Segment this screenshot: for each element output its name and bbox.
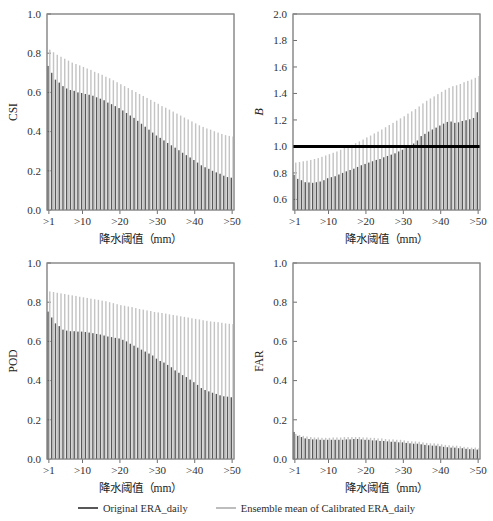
bar [47,312,48,459]
bar [79,297,80,459]
bar [88,95,89,210]
bar [368,440,369,459]
bar [377,438,378,459]
bar [124,306,125,459]
bar [381,129,382,210]
y-tick-label: 0.4 [273,374,287,386]
bar [115,338,116,459]
bar [321,438,322,459]
plot-frame [293,263,480,459]
bar [178,150,179,210]
bar [415,441,416,459]
bar [163,140,164,210]
bar [150,100,151,210]
bar [437,94,438,210]
bar [417,444,418,459]
y-tick-label: 1.0 [273,257,287,269]
bar [94,72,95,210]
plot-frame-overlay [47,14,234,210]
bar [174,148,175,210]
plot-frame [47,263,234,459]
bar [163,363,164,459]
bar [448,445,449,459]
bar [150,311,151,459]
y-tick-label: 0.8 [273,296,287,308]
bar [53,292,54,459]
bar [201,388,202,459]
bar [229,136,230,210]
bar [308,439,309,459]
bar [171,145,172,210]
bar [357,439,358,459]
bar [148,354,149,459]
bar [59,83,60,210]
bar [57,55,58,210]
bar [109,78,110,210]
bar [297,436,298,459]
y-tick-label: 2.0 [273,8,287,20]
bar [394,442,395,459]
bar [128,88,129,210]
chart-panel-b: 0.60.81.01.21.41.61.82.0>1>10>20>30>40>5… [246,0,493,249]
bar-group-csi [47,50,233,210]
bar [135,308,136,459]
bar [77,92,78,210]
bar [92,96,93,210]
bar [445,445,446,459]
bar [327,178,328,210]
bar [351,437,352,459]
bar [329,438,330,459]
bar [86,298,87,459]
bar [310,160,311,210]
bar [81,93,82,210]
bar [318,437,319,459]
bar [349,170,350,210]
bar [473,449,474,459]
bar [306,161,307,210]
bar [396,440,397,459]
bar [379,159,380,210]
bar [122,110,123,210]
x-tick-label: >20 [111,464,129,476]
bar [182,375,183,459]
bar [389,125,390,210]
y-tick-label: 0.4 [27,374,41,386]
bar [176,114,177,210]
bar [402,442,403,459]
bar [435,446,436,459]
bar [154,312,155,459]
y-tick-label: 0.4 [27,125,41,137]
bar [391,155,392,210]
bar [318,158,319,210]
bar [98,300,99,459]
bar [107,337,108,460]
x-tick-label: >20 [357,464,375,476]
bar [424,445,425,459]
x-tick-label: >40 [432,215,450,227]
bar [201,165,202,210]
bar [312,439,313,459]
y-tick-label: 1.0 [273,140,287,152]
bar [225,323,226,459]
bar [426,101,427,210]
bar [413,444,414,459]
bar [385,127,386,210]
bar [383,441,384,459]
bar [297,179,298,210]
bar [66,88,67,210]
bar [430,443,431,459]
bar [372,161,373,210]
x-axis-title-b: 降水阈值（mm） [345,232,429,245]
y-axis-title-b: B [252,108,266,116]
bar [359,141,360,210]
bar [169,314,170,459]
bar [148,130,149,210]
bar [391,442,392,459]
bar [370,438,371,459]
bar [418,106,419,210]
bar [308,182,309,210]
y-tick-label: 0.0 [27,453,41,465]
bar [420,444,421,459]
x-axis-ticks: >1>10>20>30>40>50 [289,459,487,476]
bar [197,385,198,459]
